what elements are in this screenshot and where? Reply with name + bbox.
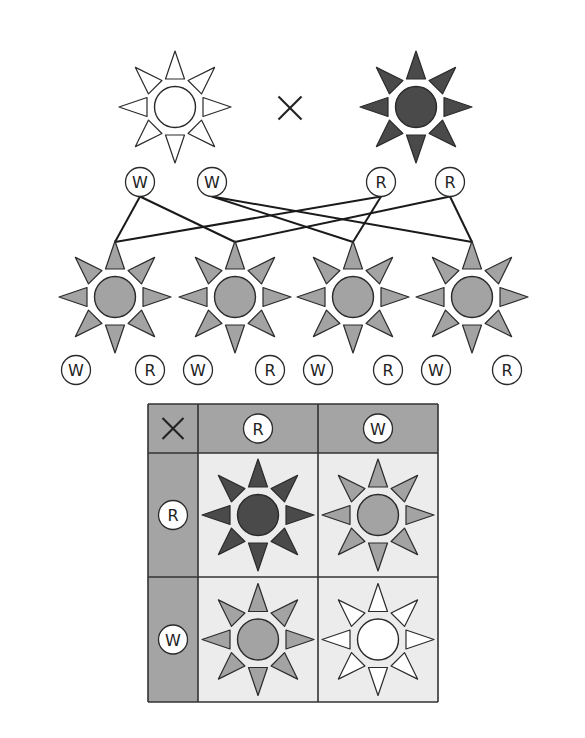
petal-ray-icon <box>344 325 363 353</box>
punnett-row-header-w: W <box>159 625 188 654</box>
offspring-pink-flower-icon <box>179 241 291 353</box>
petal-ray-icon <box>75 310 102 337</box>
offspring-allele-w: W <box>422 356 451 385</box>
allele-label: R <box>252 420 263 439</box>
offspring-pink-flower-icon <box>59 241 171 353</box>
parent-generation <box>119 51 472 163</box>
allele-label: R <box>501 361 512 380</box>
offspring-4: WR <box>416 241 528 385</box>
punnett-cell-ww <box>318 577 438 702</box>
punnett-col-header-w: W <box>364 414 393 443</box>
flower-center-icon <box>333 277 374 318</box>
gamete-r-3: R <box>367 168 396 197</box>
allele-label: W <box>165 631 181 650</box>
petal-ray-icon <box>463 325 482 353</box>
petal-ray-icon <box>179 288 207 307</box>
petal-ray-icon <box>226 325 245 353</box>
petal-ray-icon <box>429 67 456 94</box>
petal-ray-icon <box>195 310 222 337</box>
petal-ray-icon <box>432 310 459 337</box>
flower-center-icon <box>238 495 279 536</box>
offspring-pink-flower-icon <box>416 241 528 353</box>
f1-offspring: WRWRWRWR <box>59 241 528 385</box>
gamete-r-4: R <box>436 168 465 197</box>
allele-label: W <box>204 173 220 192</box>
flower-center-icon <box>358 619 399 660</box>
petal-ray-icon <box>188 67 215 94</box>
petal-ray-icon <box>376 120 403 147</box>
parent-red-flower-icon <box>360 51 472 163</box>
allele-label: R <box>264 361 275 380</box>
petal-ray-icon <box>376 67 403 94</box>
allele-label: R <box>444 173 455 192</box>
offspring-allele-r: R <box>136 356 165 385</box>
petal-ray-icon <box>360 98 388 117</box>
petal-ray-icon <box>135 120 162 147</box>
offspring-3: WR <box>297 241 409 385</box>
allele-label: W <box>68 361 84 380</box>
petal-ray-icon <box>166 135 185 163</box>
punnett-header-row <box>148 404 438 453</box>
flower-center-icon <box>238 619 279 660</box>
allele-label: W <box>190 361 206 380</box>
petal-ray-icon <box>432 257 459 284</box>
offspring-1: WR <box>59 241 171 385</box>
petal-ray-icon <box>463 241 482 269</box>
allele-label: R <box>382 361 393 380</box>
allele-label: W <box>132 173 148 192</box>
allele-label: W <box>310 361 326 380</box>
white-flower-icon <box>322 584 434 696</box>
punnett-square: RWRW <box>148 404 438 702</box>
petal-ray-icon <box>416 288 444 307</box>
flower-center-icon <box>155 87 196 128</box>
cross-symbol-icon <box>279 97 302 120</box>
petal-ray-icon <box>313 310 340 337</box>
petal-ray-icon <box>128 257 155 284</box>
diagram-canvas: WWRR WRWRWRWR RWRW <box>0 0 585 738</box>
petal-ray-icon <box>500 288 528 307</box>
petal-ray-icon <box>366 257 393 284</box>
gamete-connection-line <box>353 197 381 243</box>
offspring-allele-w: W <box>62 356 91 385</box>
gamete-connection-line <box>450 197 472 243</box>
pink-flower-icon <box>322 459 434 571</box>
petal-ray-icon <box>135 67 162 94</box>
gamete-w-1: W <box>126 168 155 197</box>
allele-label: W <box>428 361 444 380</box>
allele-label: R <box>167 506 178 525</box>
flower-center-icon <box>396 87 437 128</box>
petal-ray-icon <box>381 288 409 307</box>
offspring-allele-r: R <box>374 356 403 385</box>
petal-ray-icon <box>313 257 340 284</box>
offspring-allele-r: R <box>493 356 522 385</box>
petal-ray-icon <box>248 310 275 337</box>
genetics-cross-diagram: WWRR WRWRWRWR RWRW <box>0 0 585 738</box>
petal-ray-icon <box>195 257 222 284</box>
petal-ray-icon <box>407 135 426 163</box>
petal-ray-icon <box>248 257 275 284</box>
petal-ray-icon <box>297 288 325 307</box>
petal-ray-icon <box>188 120 215 147</box>
petal-ray-icon <box>485 257 512 284</box>
allele-label: R <box>144 361 155 380</box>
flower-center-icon <box>215 277 256 318</box>
petal-ray-icon <box>344 241 363 269</box>
petal-ray-icon <box>106 241 125 269</box>
offspring-2: WR <box>179 241 291 385</box>
petal-ray-icon <box>226 241 245 269</box>
allele-label: R <box>375 173 386 192</box>
petal-ray-icon <box>263 288 291 307</box>
red-flower-icon <box>202 459 314 571</box>
parent-gametes: WWRR <box>126 168 465 197</box>
gamete-w-2: W <box>198 168 227 197</box>
offspring-allele-w: W <box>304 356 333 385</box>
gamete-connection-line <box>212 197 353 243</box>
gamete-connection-lines <box>115 197 472 243</box>
punnett-cell-wr <box>198 577 318 702</box>
flower-center-icon <box>95 277 136 318</box>
pink-flower-icon <box>202 584 314 696</box>
petal-ray-icon <box>59 288 87 307</box>
gamete-connection-line <box>115 197 140 243</box>
petal-ray-icon <box>366 310 393 337</box>
punnett-row-header-r: R <box>159 501 188 530</box>
